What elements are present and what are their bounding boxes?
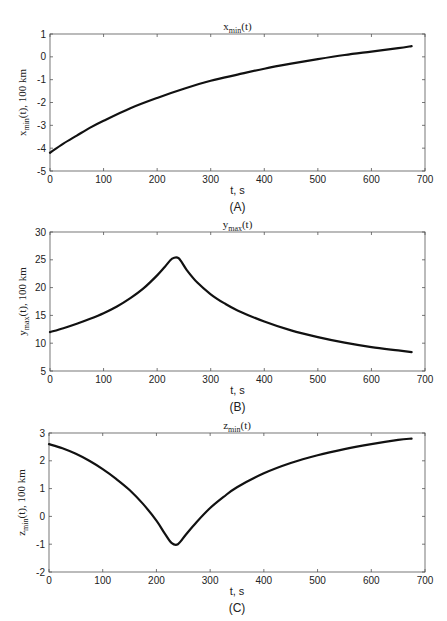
x-tick-label: 200 [149, 374, 166, 385]
y-axis-label: xmin(t), 100 km [16, 68, 31, 136]
x-tick-label: 700 [417, 575, 434, 586]
y-tick-label: 20 [35, 282, 47, 293]
y-tick-label: 1 [40, 29, 46, 40]
x-axis-label: t, s [230, 184, 245, 196]
y-tick-label: 5 [40, 366, 46, 377]
x-tick-label: 500 [310, 374, 327, 385]
x-tick-label: 700 [417, 174, 434, 185]
x-tick-label: 500 [309, 575, 326, 586]
y-tick-label: 25 [35, 254, 47, 265]
panel-caption: (B) [230, 400, 246, 414]
x-tick-label: 200 [148, 575, 165, 586]
subplot-c: 0100200300400500600700-2-10123zmin(t)t, … [15, 419, 434, 615]
plot-area [50, 232, 425, 371]
y-tick-label: 2 [39, 455, 45, 466]
y-tick-label: -2 [36, 567, 45, 578]
x-tick-label: 500 [310, 174, 327, 185]
x-tick-label: 0 [47, 174, 53, 185]
y-tick-label: 10 [35, 338, 47, 349]
subplot-b: 010020030040050060070051015202530ymax(t)… [16, 218, 434, 414]
x-axis-label: t, s [230, 384, 245, 396]
x-tick-label: 400 [256, 575, 273, 586]
y-axis-label: zmin(t), 100 km [15, 469, 30, 536]
x-tick-label: 700 [417, 374, 434, 385]
x-tick-label: 600 [363, 374, 380, 385]
x-tick-label: 100 [95, 174, 112, 185]
y-tick-label: 15 [35, 310, 47, 321]
x-tick-label: 300 [202, 374, 219, 385]
chart-title: xmin(t) [223, 20, 252, 35]
x-tick-label: 200 [149, 174, 166, 185]
plot-area [49, 433, 425, 572]
y-tick-label: -1 [36, 539, 45, 550]
x-tick-label: 300 [202, 575, 219, 586]
y-tick-label: 3 [39, 428, 45, 439]
chart-title: zmin(t) [223, 419, 251, 434]
x-tick-label: 0 [47, 374, 53, 385]
y-axis-label: ymax(t), 100 km [16, 267, 31, 336]
x-tick-label: 600 [363, 575, 380, 586]
plot-area [50, 34, 425, 171]
subplot-a: 0100200300400500600700-5-4-3-2-101xmin(t… [16, 20, 434, 214]
x-tick-label: 400 [256, 374, 273, 385]
y-tick-label: -1 [37, 74, 46, 85]
x-tick-label: 400 [256, 174, 273, 185]
y-tick-label: 1 [39, 483, 45, 494]
y-tick-label: 0 [40, 51, 46, 62]
x-tick-label: 600 [363, 174, 380, 185]
panel-caption: (C) [229, 601, 246, 615]
panel-caption: (A) [230, 200, 246, 214]
figure: 0100200300400500600700-5-4-3-2-101xmin(t… [0, 0, 447, 621]
y-tick-label: -5 [37, 166, 46, 177]
y-tick-label: -4 [37, 143, 46, 154]
x-tick-label: 100 [94, 575, 111, 586]
y-tick-label: 0 [39, 511, 45, 522]
y-tick-label: 30 [35, 227, 47, 238]
x-axis-label: t, s [230, 585, 245, 597]
x-tick-label: 100 [95, 374, 112, 385]
x-tick-label: 0 [46, 575, 52, 586]
y-tick-label: -2 [37, 97, 46, 108]
chart-title: ymax(t) [223, 218, 253, 233]
x-tick-label: 300 [202, 174, 219, 185]
y-tick-label: -3 [37, 120, 46, 131]
